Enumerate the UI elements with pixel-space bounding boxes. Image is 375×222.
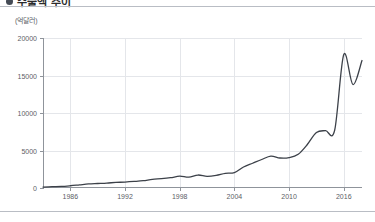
x-tick-label: 1998 xyxy=(172,193,188,200)
y-tick-label: 5000 xyxy=(21,147,37,154)
footer-divider xyxy=(0,211,375,212)
y-tick-mark xyxy=(40,188,44,189)
y-axis-unit-label: (억달러) xyxy=(15,15,38,25)
page-title: 수출액 추이 xyxy=(17,0,71,9)
line-series xyxy=(43,38,362,188)
chart-page: 수출액 추이 (억달러) 05000100001500020000 198619… xyxy=(0,0,375,222)
x-tick-label: 2016 xyxy=(336,193,352,200)
bullet-dot-icon xyxy=(6,0,13,5)
series-path-export xyxy=(43,53,362,187)
x-tick-label: 1992 xyxy=(117,193,133,200)
chart-plot-area: 05000100001500020000 1986199219982004201… xyxy=(43,38,362,188)
y-tick-label: 15000 xyxy=(18,72,37,79)
x-tick-label: 1986 xyxy=(63,193,79,200)
y-tick-label: 0 xyxy=(33,185,37,192)
x-tick-label: 2004 xyxy=(227,193,243,200)
x-tick-label: 2010 xyxy=(281,193,297,200)
header-divider xyxy=(0,6,375,7)
y-tick-label: 20000 xyxy=(18,35,37,42)
y-tick-label: 10000 xyxy=(18,110,37,117)
